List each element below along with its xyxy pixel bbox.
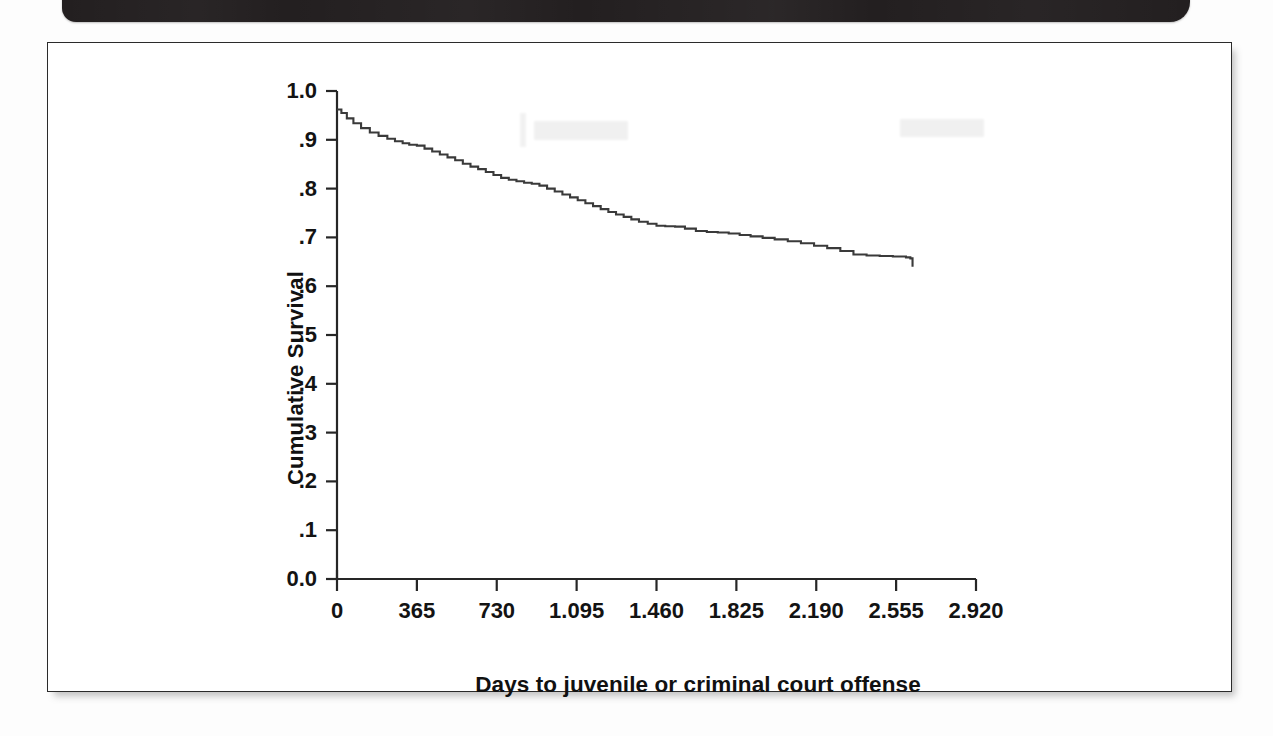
x-axis-tick-label: 365 [399,598,436,624]
x-axis-tick-label: 2.190 [789,598,844,624]
band-texture [62,0,1190,22]
y-axis-tick-label: .2 [48,468,317,494]
y-axis-title: Cumulative Survival [283,271,309,485]
y-axis-tick-label: .1 [48,517,317,543]
x-axis-tick-label: 1.095 [549,598,604,624]
x-axis-ticks [337,570,976,591]
page-header-band [62,0,1190,22]
y-axis-tick-label: 0.0 [48,566,317,592]
figure-frame: 0.0.1.2.3.4.5.6.7.8.91.0 03657301.0951.4… [47,42,1232,692]
y-axis-tick-label: .5 [48,322,317,348]
y-axis-tick-label: .9 [48,127,317,153]
y-axis-tick-label: .7 [48,224,317,250]
scanned-page: 0.0.1.2.3.4.5.6.7.8.91.0 03657301.0951.4… [0,0,1273,736]
survival-curve-line [337,110,913,267]
y-axis-ticks [326,91,337,579]
x-axis-tick-label: 2.920 [948,598,1003,624]
y-axis-tick-label: 1.0 [48,78,317,104]
x-axis-tick-label: 1.460 [629,598,684,624]
axes [326,91,976,591]
x-axis-title: Days to juvenile or criminal court offen… [475,672,921,698]
y-axis-tick-label: .8 [48,176,317,202]
y-axis-tick-label: .4 [48,371,317,397]
y-axis-tick-label: .3 [48,420,317,446]
x-axis-tick-label: 0 [331,598,343,624]
x-axis-tick-label: 730 [478,598,515,624]
y-axis-tick-label: .6 [48,273,317,299]
x-axis-tick-label: 1.825 [709,598,764,624]
x-axis-tick-label: 2.555 [869,598,924,624]
plot-area: 0.0.1.2.3.4.5.6.7.8.91.0 03657301.0951.4… [48,43,1231,691]
